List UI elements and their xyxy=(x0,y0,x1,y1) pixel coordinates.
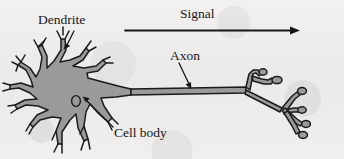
signal-arrow xyxy=(125,26,300,34)
leader-line-axon xyxy=(179,63,191,89)
label-cell-body: Cell body xyxy=(114,126,167,140)
label-dendrite: Dendrite xyxy=(38,13,85,27)
label-axon: Axon xyxy=(170,49,200,63)
axon-shaft xyxy=(131,87,246,95)
neuron-diagram-figure: .cell{fill:#9a9a9a;stroke:#1b1a1e;stroke… xyxy=(0,0,344,159)
label-signal: Signal xyxy=(180,7,215,21)
axon-terminals xyxy=(245,69,310,139)
